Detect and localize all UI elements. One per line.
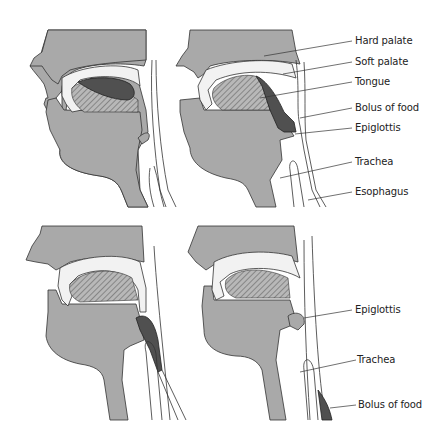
label-epiglottis: Epiglottis	[355, 122, 401, 133]
panel-2	[176, 30, 352, 207]
panel-4	[188, 226, 356, 420]
label-epiglottis-2: Epiglottis	[355, 304, 401, 315]
panel-1	[30, 30, 176, 207]
label-esophagus: Esophagus	[355, 186, 408, 197]
label-bolus-of-food: Bolus of food	[355, 102, 419, 113]
label-soft-palate: Soft palate	[355, 56, 408, 67]
label-tongue: Tongue	[355, 76, 390, 87]
label-hard-palate: Hard palate	[355, 35, 412, 46]
label-bolus-of-food-2: Bolus of food	[358, 399, 422, 410]
panel-3	[26, 226, 186, 420]
label-trachea-2: Trachea	[357, 354, 395, 365]
label-trachea: Trachea	[355, 156, 393, 167]
